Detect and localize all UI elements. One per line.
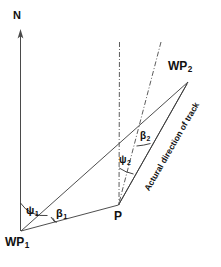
angle-arc-beta2 xyxy=(137,144,151,147)
north-axis-label: N xyxy=(13,10,21,21)
diagram-canvas xyxy=(0,0,221,267)
angle-label-beta1: β1 xyxy=(56,208,67,221)
angle-arc-psi2 xyxy=(119,168,133,174)
navigation-diagram: N WP1 WP2 P ψ1 β1 ψ2 β2 Actural directio… xyxy=(0,0,221,267)
north-reference-line-at-p xyxy=(119,42,120,205)
angle-label-beta2: β2 xyxy=(140,131,150,143)
waypoint1-label: WP1 xyxy=(5,236,29,251)
angle-label-psi1: ψ1 xyxy=(26,205,39,218)
north-axis-group xyxy=(18,29,24,231)
waypoint2-label: WP2 xyxy=(168,60,192,75)
position-p-label: P xyxy=(114,210,122,222)
angle-label-psi2: ψ2 xyxy=(119,155,131,167)
